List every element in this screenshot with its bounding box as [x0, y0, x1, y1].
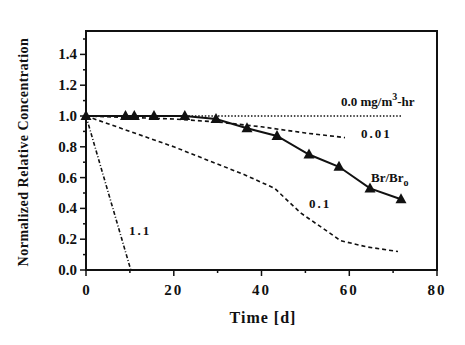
- annotation-1.1: 1.1: [129, 223, 151, 238]
- annotation-0.0: 0.0 mg/m3-hr: [341, 91, 415, 109]
- y-tick-label: 0.4: [58, 200, 77, 216]
- series-br-markers: [81, 110, 407, 203]
- y-tick-label: 0.8: [58, 139, 77, 155]
- y-tick-label: 0.2: [58, 231, 77, 247]
- series-1.1-line: [86, 116, 402, 270]
- series-br-line: [86, 116, 401, 199]
- y-tick-labels: 0.0 0.2 0.4 0.6 0.8 1.0 1.2 1.4: [58, 46, 77, 278]
- annotation-text: Br/Br: [371, 170, 404, 185]
- annotation-br: Br/Bro: [371, 170, 409, 188]
- x-tick-label: 40: [252, 282, 271, 298]
- x-tick-label: 20: [164, 282, 183, 298]
- y-tick-label: 0.0: [58, 262, 77, 278]
- annotation-0.1: 0.1: [309, 196, 331, 211]
- x-tick-labels: 0 20 40 60 80: [82, 282, 446, 298]
- y-tick-label: 1.2: [58, 77, 77, 93]
- annotation-text: -hr: [397, 94, 415, 109]
- y-tick-label: 1.0: [58, 108, 77, 124]
- x-tick-label: 60: [340, 282, 359, 298]
- y-tick-label: 1.4: [58, 46, 77, 62]
- chart: 0.0 0.2 0.4 0.6 0.8 1.0 1.2 1.4 0 20 40 …: [0, 0, 465, 345]
- annotation-subscript: o: [404, 177, 409, 188]
- x-axis-title: Time [d]: [230, 309, 297, 326]
- y-axis-title: Normalized Relative Concentration: [16, 38, 31, 267]
- triangle-marker: [304, 149, 315, 159]
- annotation-0.01: 0.01: [361, 126, 392, 141]
- y-tick-label: 0.6: [58, 170, 77, 186]
- x-tick-label: 0: [82, 282, 90, 298]
- annotation-text: 0.0 mg/m: [341, 94, 392, 109]
- x-tick-label: 80: [428, 282, 447, 298]
